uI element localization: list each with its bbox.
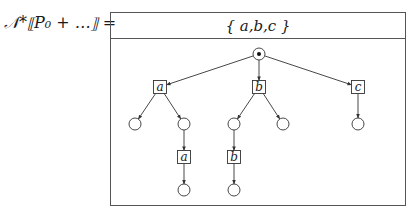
diagram-canvas: 𝒩*⟦P₀ + …⟧ = { a,b,c } abcab bbox=[0, 0, 417, 213]
edge-arrow bbox=[167, 56, 254, 85]
leaf-circle-node bbox=[129, 118, 141, 130]
leaf-circle-node bbox=[178, 118, 190, 130]
leaf-circle-node bbox=[228, 184, 240, 196]
label-box-node-a: a bbox=[154, 80, 167, 94]
tree-edges bbox=[138, 56, 358, 184]
svg-text:a: a bbox=[156, 80, 163, 94]
svg-text:a: a bbox=[180, 150, 187, 164]
leaf-circle-node bbox=[352, 118, 364, 130]
edge-arrow bbox=[265, 56, 352, 85]
label-box-node-b: b bbox=[228, 150, 241, 164]
leaf-circle-node bbox=[277, 118, 289, 130]
label-box-node-b: b bbox=[253, 80, 266, 94]
svg-text:c: c bbox=[355, 80, 362, 94]
svg-text:b: b bbox=[255, 80, 263, 94]
tree-nodes: abcab bbox=[129, 48, 365, 196]
svg-text:b: b bbox=[230, 150, 238, 164]
edge-arrow bbox=[164, 94, 181, 119]
leaf-circle-node bbox=[228, 118, 240, 130]
tree-diagram: abcab bbox=[0, 0, 417, 213]
edge-arrow bbox=[138, 94, 155, 120]
label-box-node-a: a bbox=[178, 150, 191, 164]
edge-arrow bbox=[263, 94, 280, 119]
label-box-node-c: c bbox=[352, 80, 365, 94]
root-node-icon bbox=[253, 48, 265, 60]
leaf-circle-node bbox=[178, 184, 190, 196]
edge-arrow bbox=[237, 94, 254, 120]
